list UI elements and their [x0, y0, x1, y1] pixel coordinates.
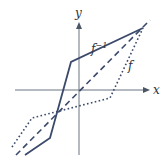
curve-f-inverse [25, 28, 143, 155]
axes: x y [15, 6, 160, 155]
y-axis-arrow-icon [76, 22, 82, 29]
x-axis-arrow-icon [143, 87, 150, 93]
y-axis-label: y [74, 6, 82, 20]
inverse-function-diagram: x y f−1 f [0, 0, 166, 164]
f-label: f [127, 59, 135, 73]
identity-line-y-equals-x [16, 20, 150, 155]
x-axis-label: x [153, 83, 160, 97]
f-inverse-label: f−1 [90, 41, 107, 56]
